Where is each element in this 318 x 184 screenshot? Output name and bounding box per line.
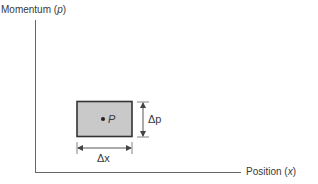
point-p-dot xyxy=(101,117,105,121)
x-axis-label: Position (x) xyxy=(246,167,296,177)
x-axis-label-text: Position xyxy=(246,166,282,177)
x-axis-symbol: x xyxy=(288,166,293,177)
point-p-label: P xyxy=(108,114,115,125)
y-axis-label-text: Momentum xyxy=(1,4,51,15)
y-axis-label: Momentum (p) xyxy=(1,5,66,15)
y-axis-symbol: p xyxy=(57,4,63,15)
delta-x-label: Δx xyxy=(97,153,110,164)
diagram-graphics xyxy=(0,0,318,184)
delta-p-label: Δp xyxy=(148,114,161,125)
